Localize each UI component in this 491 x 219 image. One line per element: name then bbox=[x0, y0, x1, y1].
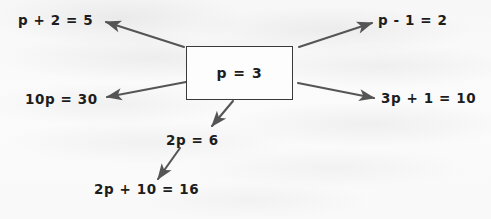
handwritten-diagram-canvas: p = 3 p + 2 = 5 p - 1 = 2 10p = 30 3p + … bbox=[0, 0, 491, 219]
branch-label-mid-right: 3p + 1 = 10 bbox=[381, 92, 476, 106]
branch-label-mid-left: 10p = 30 bbox=[25, 93, 98, 107]
branch-label-bottom-left: 2p + 10 = 16 bbox=[94, 183, 199, 197]
branch-label-top-left: p + 2 = 5 bbox=[18, 14, 93, 28]
arrow-to-bottom-mid bbox=[212, 101, 233, 126]
arrow-to-top-left bbox=[106, 22, 184, 47]
arrow-to-mid-right bbox=[298, 83, 374, 98]
branch-label-top-right: p - 1 = 2 bbox=[378, 14, 448, 28]
arrow-to-top-right bbox=[299, 23, 372, 47]
center-equation-box: p = 3 bbox=[186, 46, 293, 100]
arrow-to-bottom-left bbox=[158, 148, 180, 179]
branch-label-bottom-mid: 2p = 6 bbox=[166, 134, 219, 148]
arrow-layer bbox=[0, 0, 491, 219]
arrow-to-mid-left bbox=[107, 82, 186, 97]
paper-texture-background bbox=[0, 0, 491, 219]
center-equation-label: p = 3 bbox=[216, 66, 262, 80]
